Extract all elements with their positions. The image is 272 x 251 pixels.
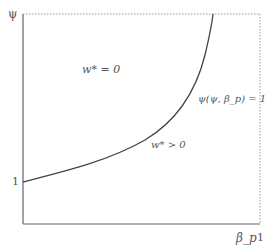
boundary-curve (23, 14, 213, 182)
diagram-canvas (0, 0, 272, 251)
region-label-lower: w* > 0 (151, 140, 186, 150)
region-label-upper: w* = 0 (82, 64, 120, 75)
curve-label: ψ(ψ, β_p) = 1 (198, 94, 266, 104)
y-tick-one: 1 (12, 176, 19, 187)
x-tick-one: 1 (257, 232, 264, 243)
x-axis-label: β_p (236, 232, 257, 244)
y-axis-label: ψ (8, 8, 17, 20)
